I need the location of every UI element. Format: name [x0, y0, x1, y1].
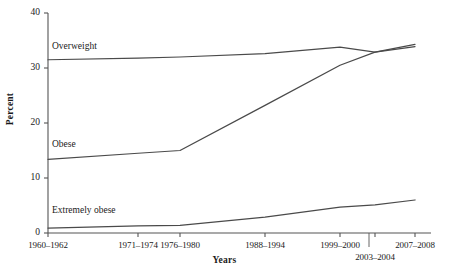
- x-tick-label-2003-2004: 2003–2004: [333, 252, 417, 262]
- y-axis-title: Percent: [5, 81, 15, 137]
- y-axis-ticks: [44, 13, 48, 233]
- y-tick-label-0: 0: [14, 227, 40, 237]
- y-tick-label-40: 40: [14, 7, 40, 17]
- series-lines: [48, 44, 415, 228]
- axis-lines: [48, 13, 431, 233]
- x-tick-label-1988-1994: 1988–1994: [223, 240, 307, 250]
- y-tick-label-20: 20: [14, 117, 40, 127]
- x-tick-label-1976-1980: 1976–1980: [138, 240, 222, 250]
- x-tick-label-1999-2000: 1999–2000: [298, 240, 382, 250]
- series-line-obese: [48, 47, 415, 160]
- x-axis-ticks: [48, 233, 415, 237]
- chart-figure: Percent Years 40 30 20 10 0 1960–1962 19…: [0, 0, 449, 277]
- y-tick-label-10: 10: [14, 172, 40, 182]
- x-tick-label-2007-2008: 2007–2008: [373, 240, 449, 250]
- series-label-obese: Obese: [52, 139, 76, 149]
- series-label-overweight: Overweight: [52, 41, 97, 51]
- series-label-extremely-obese: Extremely obese: [52, 205, 116, 215]
- y-tick-label-30: 30: [14, 62, 40, 72]
- x-tick-label-1960-1962: 1960–1962: [6, 240, 90, 250]
